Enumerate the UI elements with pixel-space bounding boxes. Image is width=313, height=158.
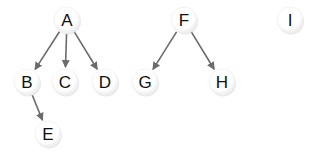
node-label: C — [59, 73, 71, 92]
edge-F-G — [153, 32, 177, 69]
node-label: E — [42, 125, 53, 144]
node-F: F — [171, 7, 198, 35]
tree-diagram: ABCDEFGHI — [0, 0, 313, 158]
node-D: D — [92, 69, 119, 97]
node-label: B — [21, 73, 32, 92]
node-B: B — [14, 69, 41, 97]
edge-A-C — [65, 34, 66, 67]
node-label: G — [138, 73, 151, 92]
nodes-layer: ABCDEFGHI — [14, 7, 304, 149]
edge-F-H — [191, 32, 214, 69]
node-label: A — [61, 11, 73, 30]
node-label: D — [99, 73, 111, 92]
edge-A-D — [74, 32, 97, 69]
node-H: H — [209, 69, 236, 97]
node-A: A — [54, 7, 81, 35]
edge-B-E — [32, 95, 42, 120]
node-C: C — [52, 69, 79, 97]
node-label: I — [288, 11, 293, 30]
node-label: H — [216, 73, 228, 92]
node-I: I — [277, 7, 304, 35]
edge-A-B — [35, 32, 59, 70]
node-label: F — [179, 11, 189, 30]
node-G: G — [132, 69, 159, 97]
node-E: E — [35, 121, 62, 149]
